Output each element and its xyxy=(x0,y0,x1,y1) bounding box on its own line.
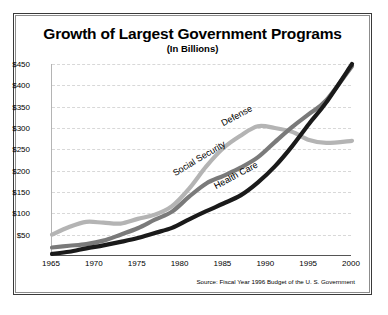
x-axis-tick-label: 1985 xyxy=(200,259,244,268)
y-axis-tick-label: $250 xyxy=(0,145,30,154)
y-axis-tick-label: $300 xyxy=(0,124,30,133)
chart-frame: Growth of Largest Government Programs (I… xyxy=(13,13,372,295)
y-axis-tick-label: $400 xyxy=(0,81,30,90)
chart-title: Growth of Largest Government Programs xyxy=(14,25,371,43)
x-axis-tick-label: 1995 xyxy=(286,259,330,268)
y-axis-tick-label: $100 xyxy=(0,209,30,218)
series-line-defense xyxy=(52,126,352,235)
x-axis-tick-label: 1975 xyxy=(115,259,159,268)
x-axis-tick-label: 1990 xyxy=(243,259,287,268)
y-axis-tick-label: $450 xyxy=(0,60,30,69)
source-note: Source: Fiscal Year 1996 Budget of the U… xyxy=(196,278,355,285)
y-axis-tick-label: $150 xyxy=(0,188,30,197)
x-axis-tick-label: 2000 xyxy=(329,259,373,268)
y-axis-tick-label: $200 xyxy=(0,167,30,176)
x-axis-tick-label: 1970 xyxy=(72,259,116,268)
y-axis-tick-label: $50 xyxy=(0,231,30,240)
plot-area: DefenseSocial SecurityHealth Care xyxy=(51,64,351,256)
chart-subtitle: (In Billions) xyxy=(14,43,371,54)
x-axis-tick-label: 1980 xyxy=(158,259,202,268)
x-axis-tick-label: 1965 xyxy=(29,259,73,268)
y-axis-tick-label: $350 xyxy=(0,103,30,112)
